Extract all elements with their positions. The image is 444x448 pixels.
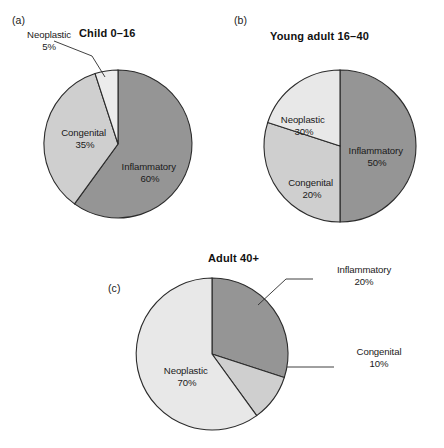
panel-b-pie: Inflammatory 50% Congenital 20% Neoplast… — [255, 60, 425, 236]
panel-a-neoplastic-label: Neoplastic — [27, 29, 71, 40]
panel-a: (a) Child 0–16 Neoplastic 5% Inflammator… — [0, 0, 222, 240]
panel-c-pie: Neoplastic 70% — [131, 266, 431, 446]
panel-b-neoplastic-name: Neoplastic — [281, 114, 325, 125]
panel-a-letter: (a) — [12, 14, 25, 26]
panel-c-neoplastic-name: Neoplastic — [164, 365, 208, 376]
panel-b: (b) Young adult 16–40 Inflammatory 50% C… — [222, 0, 444, 240]
panel-b-inflammatory-pct: 50% — [368, 157, 387, 168]
panel-a-title: Child 0–16 — [79, 27, 136, 39]
panel-c: (c) Adult 40+ Inflammatory 20% Congenita… — [0, 238, 444, 448]
panel-a-inflammatory-name: Inflammatory — [122, 161, 177, 172]
panel-b-congenital-name: Congenital — [288, 177, 333, 188]
panel-b-neoplastic-pct: 30% — [295, 126, 314, 137]
panel-a-pie: Inflammatory 60% Congenital 35% — [38, 60, 198, 232]
panel-b-congenital-pct: 20% — [303, 189, 322, 200]
panel-b-title: Young adult 16–40 — [270, 30, 369, 42]
panel-a-congenital-pct: 35% — [76, 139, 95, 150]
panel-b-letter: (b) — [234, 14, 247, 26]
panel-a-congenital-name: Congenital — [61, 127, 106, 138]
panel-a-neoplastic-pct: 5% — [13, 41, 85, 53]
panel-b-inflammatory-name: Inflammatory — [349, 145, 404, 156]
panel-c-title: Adult 40+ — [208, 252, 259, 264]
panel-c-neoplastic-pct: 70% — [178, 377, 197, 388]
panel-a-inflammatory-pct: 60% — [141, 173, 160, 184]
panel-c-letter: (c) — [108, 282, 121, 294]
